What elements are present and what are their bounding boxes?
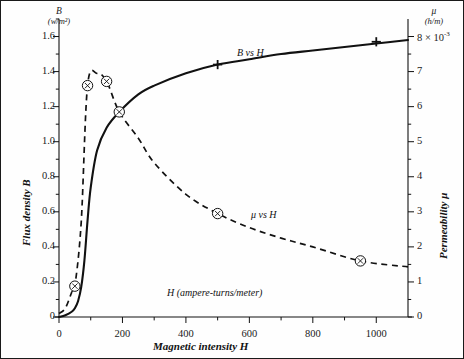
tick-label: 0 xyxy=(41,329,77,340)
left-axis-ticks xyxy=(53,19,59,317)
tick-label: 1.0 xyxy=(25,136,55,147)
chart-canvas xyxy=(1,1,464,359)
tick-label: 4 xyxy=(417,171,422,182)
tick-label: 400 xyxy=(168,329,204,340)
tick-label: 1.2 xyxy=(25,101,55,112)
tick-label: 600 xyxy=(231,329,267,340)
tick-label: 3 xyxy=(417,206,422,217)
markers-mu-vs-h xyxy=(70,76,366,291)
tick-label: 6 xyxy=(417,101,422,112)
tick-label: 7 xyxy=(417,66,422,77)
tick-label: 0 xyxy=(25,311,55,322)
tick-label: 1000 xyxy=(358,329,394,340)
bottom-axis-title: Magnetic intensity H xyxy=(153,341,248,352)
tick-label: 0.2 xyxy=(25,276,55,287)
tick-label: 0.4 xyxy=(25,241,55,252)
tick-label: 800 xyxy=(295,329,331,340)
right-axis-ticks xyxy=(408,37,414,317)
bottom-axis-ticks xyxy=(59,317,376,323)
tick-label: 0.8 xyxy=(25,171,55,182)
tick-label: 2 xyxy=(417,241,422,252)
curve-label-b-vs-h: B vs H xyxy=(237,48,264,58)
right-axis-unit: μ (h/m) xyxy=(412,7,456,25)
tick-label: 5 xyxy=(417,136,422,147)
left-axis-unit: B (w/m²) xyxy=(37,7,81,25)
tick-label: 1.6 xyxy=(25,31,55,42)
bottom-axis-unit-label: H (ampere-turns/meter) xyxy=(167,288,262,298)
tick-label: 0 xyxy=(417,311,422,322)
curve-label-mu-vs-h: μ vs H xyxy=(251,210,277,220)
tick-label: 200 xyxy=(104,329,140,340)
tick-label: 1 xyxy=(417,276,422,287)
right-axis-title: Permeability μ xyxy=(438,193,449,259)
figure-container: B (w/m²) μ (h/m) Flux density B Permeabi… xyxy=(0,0,464,359)
curve-mu-vs-h xyxy=(59,70,408,313)
right-axis-unit-text: (h/m) xyxy=(425,16,443,26)
tick-label: 1.4 xyxy=(25,66,55,77)
axis-lines xyxy=(55,19,412,317)
left-axis-unit-text: (w/m²) xyxy=(48,16,70,26)
right-tick-label-top: 8 × 10-3 xyxy=(417,31,450,43)
tick-label: 0.6 xyxy=(25,206,55,217)
